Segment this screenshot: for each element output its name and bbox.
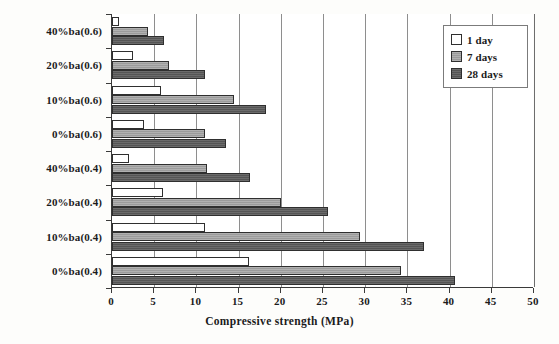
y-axis-label-10%ba(0.4): 10%ba(0.4) <box>0 231 102 243</box>
x-tick-label: 35 <box>401 295 412 307</box>
legend-item-7-days: 7 days <box>451 48 521 65</box>
legend-label-1-day: 1 day <box>467 34 493 46</box>
bar-10%ba(0.4)-28 days <box>112 242 424 251</box>
bar-20%ba(0.4)-28 days <box>112 207 328 216</box>
x-tick-label: 40 <box>443 295 454 307</box>
bar-10%ba(0.4)-7 days <box>112 232 360 241</box>
y-tick <box>106 185 111 186</box>
bar-0%ba(0.4)-1 day <box>112 257 249 266</box>
legend-label-7-days: 7 days <box>467 51 497 63</box>
x-axis-title: Compressive strength (MPa) <box>0 315 559 327</box>
y-axis-label-0%ba(0.6): 0%ba(0.6) <box>0 128 102 140</box>
y-tick <box>106 117 111 118</box>
x-tick-label: 50 <box>527 295 538 307</box>
bar-10%ba(0.4)-1 day <box>112 223 205 232</box>
x-tick <box>449 288 450 293</box>
y-tick <box>106 220 111 221</box>
legend-label-28-days: 28 days <box>467 68 503 80</box>
bar-0%ba(0.6)-28 days <box>112 139 226 148</box>
bar-0%ba(0.4)-28 days <box>112 276 455 285</box>
compressive-strength-bar-chart: 05101520253035404550 40%ba(0.6)20%ba(0.6… <box>0 0 559 344</box>
bar-20%ba(0.6)-28 days <box>112 70 205 79</box>
y-axis-label-40%ba(0.4): 40%ba(0.4) <box>0 162 102 174</box>
x-tick-label: 5 <box>150 295 156 307</box>
y-tick <box>106 83 111 84</box>
x-tick <box>533 288 534 293</box>
x-tick <box>111 288 112 293</box>
y-tick <box>106 48 111 49</box>
x-tick <box>153 288 154 293</box>
bar-40%ba(0.4)-7 days <box>112 164 207 173</box>
bar-0%ba(0.4)-7 days <box>112 266 401 275</box>
y-axis-label-0%ba(0.4): 0%ba(0.4) <box>0 265 102 277</box>
x-tick-label: 15 <box>232 295 243 307</box>
bar-20%ba(0.4)-7 days <box>112 198 281 207</box>
x-tick <box>195 288 196 293</box>
legend-item-28-days: 28 days <box>451 65 521 82</box>
y-axis-label-40%ba(0.6): 40%ba(0.6) <box>0 25 102 37</box>
x-tick <box>280 288 281 293</box>
bar-40%ba(0.6)-28 days <box>112 36 164 45</box>
x-tick-label: 20 <box>274 295 285 307</box>
bar-0%ba(0.6)-7 days <box>112 129 205 138</box>
x-tick-label: 25 <box>316 295 327 307</box>
y-tick <box>106 254 111 255</box>
x-tick-label: 30 <box>358 295 369 307</box>
y-tick <box>106 14 111 15</box>
bar-10%ba(0.6)-28 days <box>112 105 266 114</box>
bar-10%ba(0.6)-1 day <box>112 86 161 95</box>
y-tick <box>106 151 111 152</box>
y-axis-label-20%ba(0.4): 20%ba(0.4) <box>0 196 102 208</box>
x-tick-label: 0 <box>108 295 114 307</box>
bar-40%ba(0.4)-28 days <box>112 173 250 182</box>
y-tick <box>106 288 111 289</box>
bar-20%ba(0.6)-1 day <box>112 51 133 60</box>
x-tick <box>322 288 323 293</box>
bar-0%ba(0.6)-1 day <box>112 120 144 129</box>
x-tick-label: 10 <box>190 295 201 307</box>
legend-swatch-1-day <box>451 34 462 45</box>
chart-legend: 1 day 7 days 28 days <box>443 25 528 88</box>
bar-10%ba(0.6)-7 days <box>112 95 234 104</box>
y-axis-label-10%ba(0.6): 10%ba(0.6) <box>0 94 102 106</box>
bar-40%ba(0.4)-1 day <box>112 154 129 163</box>
legend-item-1-day: 1 day <box>451 31 521 48</box>
x-tick <box>491 288 492 293</box>
bar-20%ba(0.4)-1 day <box>112 188 163 197</box>
bar-20%ba(0.6)-7 days <box>112 61 169 70</box>
y-axis-label-20%ba(0.6): 20%ba(0.6) <box>0 59 102 71</box>
legend-swatch-28-days <box>451 68 462 79</box>
x-tick <box>406 288 407 293</box>
gridline <box>534 14 535 287</box>
x-tick <box>238 288 239 293</box>
x-tick <box>364 288 365 293</box>
bar-40%ba(0.6)-1 day <box>112 17 119 26</box>
bar-40%ba(0.6)-7 days <box>112 27 148 36</box>
legend-swatch-7-days <box>451 51 462 62</box>
x-tick-label: 45 <box>485 295 496 307</box>
